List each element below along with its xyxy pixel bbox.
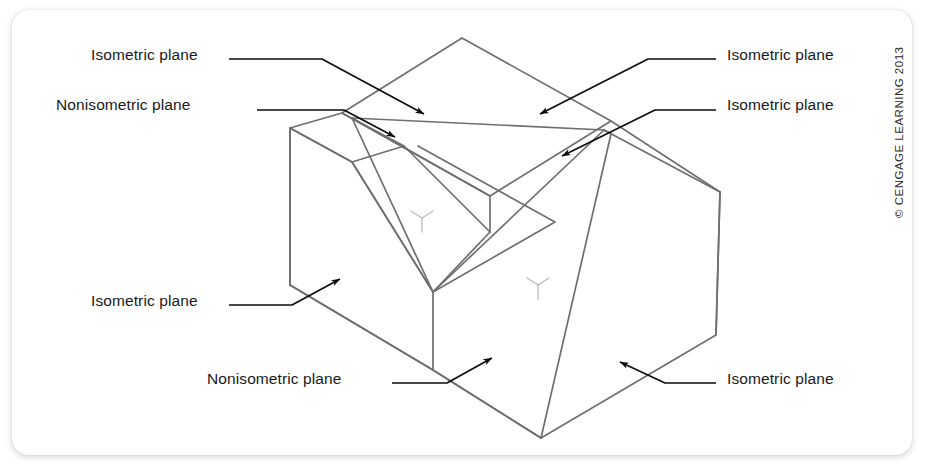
copyright-notice: © CENGAGE LEARNING 2013 bbox=[893, 47, 905, 218]
label-top-left-isometric: Isometric plane bbox=[91, 46, 198, 64]
label-lower-left-isometric: Isometric plane bbox=[91, 292, 198, 310]
label-left-nonisometric: Nonisometric plane bbox=[56, 96, 190, 114]
label-bottom-right-isometric: Isometric plane bbox=[727, 370, 834, 388]
figure-root: Isometric plane Nonisometric plane Isome… bbox=[0, 0, 933, 475]
figure-card bbox=[12, 10, 912, 455]
label-bottom-nonisometric: Nonisometric plane bbox=[207, 370, 341, 388]
label-right-upper-isometric: Isometric plane bbox=[727, 96, 834, 114]
label-top-right-isometric: Isometric plane bbox=[727, 46, 834, 64]
